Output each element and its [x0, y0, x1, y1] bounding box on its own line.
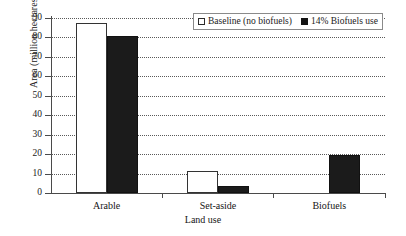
legend-entry-baseline: Baseline (no biofuels) [198, 15, 292, 27]
y-axis-tick [45, 193, 51, 194]
x-axis-separator-tick [162, 193, 163, 198]
x-axis-category-label: Biofuels [274, 200, 385, 212]
open-square-icon [198, 18, 205, 25]
y-axis-tick-label: 80 [12, 32, 42, 42]
x-axis-separator-tick [273, 193, 274, 198]
x-axis-category-label: Set-aside [162, 200, 273, 212]
bar-set-aside-baseline [187, 171, 218, 193]
plot-area [51, 18, 385, 193]
bar-biofuels-biofuels [329, 155, 360, 193]
x-axis-title: Land use [0, 214, 406, 226]
legend-entry-biofuels: 14% Biofuels use [301, 15, 378, 27]
x-axis-line [51, 193, 385, 194]
x-axis-category-label: Arable [51, 200, 162, 212]
y-axis-tick-label: 10 [12, 169, 42, 179]
y-axis-tick-label: 50 [12, 91, 42, 101]
bar-set-aside-biofuels [218, 186, 249, 193]
legend-label-baseline: Baseline (no biofuels) [208, 15, 292, 27]
filled-square-icon [301, 18, 308, 25]
bar-arable-biofuels [107, 36, 138, 194]
x-axis-end-tick [385, 193, 386, 198]
y-axis-tick-label: 20 [12, 149, 42, 159]
y-axis-tick-label: 40 [12, 110, 42, 120]
bar-chart-figure: Area (million hectares) 0102030405060708… [0, 0, 406, 236]
y-axis-tick-label: 0 [12, 188, 42, 198]
y-axis-tick-label: 30 [12, 130, 42, 140]
y-axis-tick-label: 70 [12, 52, 42, 62]
legend-label-biofuels: 14% Biofuels use [311, 15, 378, 27]
chart-legend: Baseline (no biofuels) 14% Biofuels use [193, 13, 383, 30]
y-axis-tick-label: 90 [12, 13, 42, 23]
y-axis-tick-label: 60 [12, 71, 42, 81]
bar-arable-baseline [76, 23, 107, 193]
